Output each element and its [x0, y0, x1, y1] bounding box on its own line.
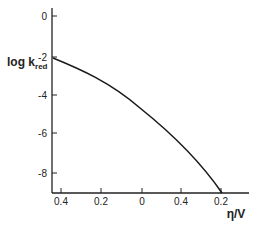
- y-tick-label: -4: [38, 90, 47, 101]
- chart: 0 -2 -4 -6 -8 0.4 0.2 0 0.4 0.2 log kred…: [0, 0, 264, 230]
- x-tick-label: 0.4: [174, 196, 188, 207]
- x-tick-label: 0: [139, 196, 145, 207]
- data-curve: [53, 58, 222, 193]
- y-axis-label-subscript: red: [35, 62, 48, 71]
- y-axis-label-main: log k: [7, 55, 35, 69]
- x-ticks: [61, 188, 221, 193]
- y-tick-label: -6: [38, 128, 47, 139]
- y-tick-labels: 0 -2 -4 -6 -8: [38, 11, 47, 179]
- x-tick-label: 0.4: [54, 196, 68, 207]
- x-tick-label: 0.2: [94, 196, 108, 207]
- y-ticks: [52, 16, 57, 173]
- x-tick-label: 0.2: [214, 196, 228, 207]
- x-axis-label: η/V: [227, 207, 246, 221]
- x-tick-labels: 0.4 0.2 0 0.4 0.2: [54, 196, 228, 207]
- y-tick-label: -8: [38, 168, 47, 179]
- y-tick-label: 0: [41, 11, 47, 22]
